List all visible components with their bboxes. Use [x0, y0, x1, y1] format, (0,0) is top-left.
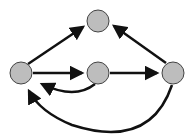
node-top: [87, 10, 109, 32]
directed-graph-diagram: [0, 0, 195, 139]
edge-right-to-left: [29, 85, 172, 132]
node-left: [10, 62, 32, 84]
node-middle: [87, 62, 109, 84]
node-right: [162, 62, 184, 84]
edge-middle-to-left: [42, 84, 95, 92]
edge-right-to-top: [114, 26, 166, 63]
edge-left-to-top: [28, 27, 83, 64]
